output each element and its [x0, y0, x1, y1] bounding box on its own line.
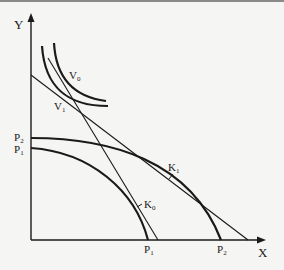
diagram-frame: Y X P2 P1 P1 P2 K1 K0 V0	[0, 0, 284, 270]
y-axis-arrow-icon	[28, 13, 35, 22]
p1-y-intercept-label: P1	[14, 143, 24, 157]
v0-label: V0	[69, 69, 81, 83]
v1-label: V1	[54, 100, 66, 114]
k1-label: K1	[168, 161, 180, 175]
p2-x-intercept-label: P2	[217, 243, 227, 257]
trade-diagram: Y X P2 P1 P1 P2 K1 K0 V0	[0, 0, 284, 270]
x-axis-name: X	[258, 245, 268, 260]
x-axis-arrow-icon	[257, 237, 266, 244]
price-line-steep	[48, 58, 158, 240]
p1-x-intercept-label: P1	[144, 243, 154, 257]
y-axis-label: Y	[14, 17, 24, 32]
k0-label: K0	[144, 198, 156, 212]
